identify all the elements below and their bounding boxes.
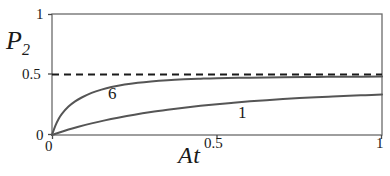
curve-label-six: 6 [108, 85, 117, 102]
x-axis-title: At [178, 143, 200, 167]
y-tick-label-0point5: 0.5 [22, 67, 41, 82]
y-axis-title-base: P [6, 26, 22, 55]
x-tick-label-0point5: 0.5 [204, 136, 223, 151]
chart-figure: P2 At 1 0.5 0 0 0.5 1 6 1 [0, 0, 390, 176]
y-tick-label-0: 0 [36, 128, 44, 143]
x-tick-label-1: 1 [376, 136, 384, 151]
y-axis-title-subscript: 2 [22, 41, 30, 58]
curve-label-one: 1 [238, 104, 247, 121]
y-axis-title: P2 [6, 28, 30, 58]
x-tick-label-0: 0 [45, 139, 53, 154]
y-tick-label-1: 1 [36, 7, 44, 22]
